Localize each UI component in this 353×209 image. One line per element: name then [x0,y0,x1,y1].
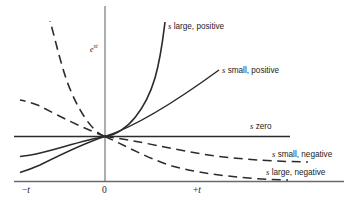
curve-label-s-small-negative: s small, negative [272,150,332,159]
curve-s-large-positive-left-branch [50,21,105,137]
curve-s-large-positive [105,22,165,137]
curve-label-s-large-positive: s large, positive [168,22,224,31]
curve-s-large-negative [105,137,288,181]
x-axis-label-origin: 0 [102,186,107,196]
chart-canvas [0,0,353,209]
exponential-curves-chart: est −t 0 +t s large, positive s small, p… [0,0,353,209]
curve-label-s-large-negative: s large, negative [266,168,325,177]
curve-s-small-positive-left-branch [20,100,105,137]
curve-s-small-positive [105,70,219,137]
y-axis-label: est [90,43,98,54]
curve-label-s-small-positive: s small, positive [222,66,279,75]
curve-label-s-zero: s zero [250,122,272,131]
x-axis-label-negative: −t [22,186,30,196]
x-axis-label-positive: +t [193,186,201,196]
